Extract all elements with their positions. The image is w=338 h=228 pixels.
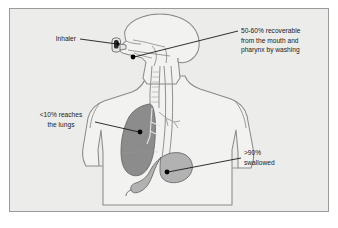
pharynx-marker	[131, 55, 136, 60]
diagram-root: Inhaler50-60% recoverablefrom the mouth …	[0, 0, 338, 228]
inhaler-marker	[116, 42, 119, 45]
mouth-pharynx-label-line-3: pharynx by washing	[241, 46, 300, 54]
swallowed-label-line-2: swallowed	[244, 159, 275, 166]
mouth-pharynx-label: 50-60% recoverablefrom the mouth andphar…	[241, 27, 301, 54]
inhaler-label: Inhaler	[56, 35, 77, 42]
lungs-label-line-1: <10% reaches	[40, 111, 83, 118]
inhaler-deposition-diagram: Inhaler50-60% recoverablefrom the mouth …	[0, 0, 338, 228]
neck-outline	[143, 58, 180, 84]
lung-marker	[138, 130, 143, 135]
mouth-pharynx-label-line-2: from the mouth and	[241, 37, 299, 44]
stomach-marker	[165, 170, 170, 175]
mouth-pharynx-label-line-1: 50-60% recoverable	[241, 27, 301, 34]
swallowed-label-line-1: >90%	[244, 149, 261, 156]
inhaler-mouthpiece	[120, 44, 126, 50]
inhaler-label-line-1: Inhaler	[56, 35, 77, 42]
lungs-label-line-2: the lungs	[48, 121, 76, 129]
